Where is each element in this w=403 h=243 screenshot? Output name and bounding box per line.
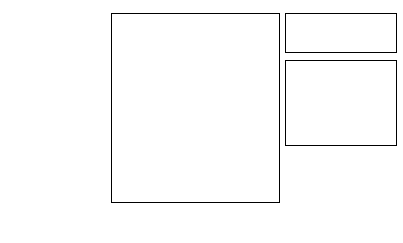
x-axis [111, 203, 280, 233]
plot-area [111, 13, 280, 203]
annotation-box [285, 60, 397, 146]
category-axis-labels [0, 13, 107, 203]
bar-chart [0, 0, 403, 243]
legend [285, 13, 397, 53]
bars-container [112, 14, 279, 202]
